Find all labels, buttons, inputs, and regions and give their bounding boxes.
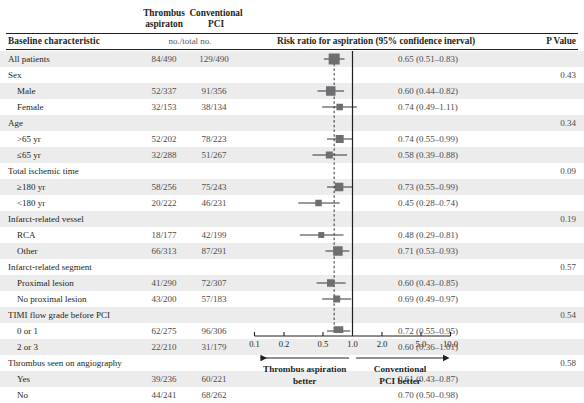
cell-conventional-pci-count: 57/183: [188, 294, 240, 305]
cell-conventional-pci-count: 91/356: [188, 86, 240, 97]
table-row: Other66/31387/2910.71 (0.53–0.93): [0, 243, 584, 259]
cell-thrombus-aspiration-count: 32/153: [140, 102, 188, 113]
table-row: ≤65 yr32/28851/2670.58 (0.39–0.88): [0, 147, 584, 163]
row-label: <180 yr: [8, 198, 159, 209]
table-row: >65 yr52/20278/2230.74 (0.55–0.99): [0, 131, 584, 147]
cell-conventional-pci-count: 38/134: [188, 102, 240, 113]
row-label: All patients: [8, 54, 150, 65]
cell-thrombus-aspiration-count: 41/290: [140, 278, 188, 289]
column-header-baseline-characteristic: Baseline characteristic: [8, 36, 100, 46]
axis-tick-label: 5.0: [416, 339, 427, 349]
cell-conventional-pci-count: 78/223: [188, 134, 240, 145]
cell-conventional-pci-count: 51/267: [188, 150, 240, 161]
subgroup-header-row: Age0.34: [0, 115, 584, 131]
axis-footer-right-line1: Conventional: [374, 364, 427, 374]
axis-footer-left-line2: better: [293, 376, 316, 386]
table-row: Proximal lesion41/29072/3070.60 (0.43–0.…: [0, 275, 584, 291]
header-rule-bottom: [6, 49, 578, 50]
subgroup-header-row: TIMI flow grade before PCI0.54: [0, 307, 584, 323]
row-label: Male: [8, 86, 159, 97]
axis-tick-label: 10.0: [443, 339, 458, 349]
row-label: Infarct-related vessel: [8, 214, 150, 225]
row-label: ≤65 yr: [8, 150, 159, 161]
table-row: All patients84/490129/4900.65 (0.51–0.83…: [0, 51, 584, 67]
axis-tick-label: 0.1: [249, 339, 260, 349]
cell-risk-ratio: 0.73 (0.55–0.99): [398, 182, 514, 193]
row-label: ≥180 yr: [8, 182, 159, 193]
subgroup-header-row: Total ischemic time0.09: [0, 163, 584, 179]
row-label: Age: [8, 118, 150, 129]
cell-risk-ratio: 0.71 (0.53–0.93): [398, 246, 514, 257]
row-label: Total ischemic time: [8, 166, 150, 177]
cell-thrombus-aspiration-count: 20/222: [140, 198, 188, 209]
axis-tick-label: 0.5: [318, 339, 329, 349]
cell-thrombus-aspiration-count: 58/256: [140, 182, 188, 193]
table-row: ≥180 yr58/25675/2430.73 (0.55–0.99): [0, 179, 584, 195]
cell-thrombus-aspiration-count: 84/490: [140, 54, 188, 65]
cell-risk-ratio: 0.60 (0.44–0.82): [398, 86, 514, 97]
cell-risk-ratio: 0.45 (0.28–0.74): [398, 198, 514, 209]
axis-tick-label: 1.0: [347, 339, 358, 349]
cell-thrombus-aspiration-count: 66/313: [140, 246, 188, 257]
cell-conventional-pci-count: 87/291: [188, 246, 240, 257]
table-row: <180 yr20/22246/2310.45 (0.28–0.74): [0, 195, 584, 211]
column-header-thrombus-aspiration: Thrombus aspiraton: [138, 8, 190, 30]
cell-risk-ratio: 0.60 (0.43–0.85): [398, 278, 514, 289]
cell-thrombus-aspiration-count: 43/200: [140, 294, 188, 305]
subgroup-header-row: Infarct-related vessel0.19: [0, 211, 584, 227]
cell-risk-ratio: 0.58 (0.39–0.88): [398, 150, 514, 161]
cell-p-value: 0.19: [516, 214, 576, 225]
column-header-no-total-no: no./total no.: [140, 36, 240, 46]
header-rule-top: [6, 33, 578, 34]
cell-risk-ratio: 0.48 (0.29–0.81): [398, 230, 514, 241]
cell-thrombus-aspiration-count: 52/337: [140, 86, 188, 97]
table-row: No proximal lesion43/20057/1830.69 (0.49…: [0, 291, 584, 307]
row-label: >65 yr: [8, 134, 159, 145]
cell-risk-ratio: 0.74 (0.49–1.11): [398, 102, 514, 113]
row-label: TIMI flow grade before PCI: [8, 310, 150, 321]
cell-risk-ratio: 0.69 (0.49–0.97): [398, 294, 514, 305]
cell-thrombus-aspiration-count: 32/288: [140, 150, 188, 161]
cell-p-value: 0.57: [516, 262, 576, 273]
cell-p-value: 0.54: [516, 310, 576, 321]
subgroup-header-row: Sex0.43: [0, 67, 584, 83]
cell-thrombus-aspiration-count: 52/202: [140, 134, 188, 145]
row-label: Other: [8, 246, 159, 257]
cell-thrombus-aspiration-count: 18/177: [140, 230, 188, 241]
subgroup-header-row: Infarct-related segment0.57: [0, 259, 584, 275]
cell-conventional-pci-count: 75/243: [188, 182, 240, 193]
column-header-p-value: P Value: [508, 36, 576, 46]
cell-conventional-pci-count: 42/199: [188, 230, 240, 241]
axis-tick-label: 2.0: [377, 339, 388, 349]
cell-p-value: 0.09: [516, 166, 576, 177]
cell-conventional-pci-count: 72/307: [188, 278, 240, 289]
cell-p-value: 0.43: [516, 70, 576, 81]
cell-risk-ratio: 0.65 (0.51–0.83): [398, 54, 514, 65]
table-row: RCA18/17742/1990.48 (0.29–0.81): [0, 227, 584, 243]
cell-p-value: 0.34: [516, 118, 576, 129]
cell-risk-ratio: 0.74 (0.55–0.99): [398, 134, 514, 145]
row-label: Sex: [8, 70, 150, 81]
axis-footer-left-line1: Thrombus aspiration: [263, 364, 346, 374]
row-label: No proximal lesion: [8, 294, 159, 305]
axis-footer-right-line2: PCI better: [379, 376, 421, 386]
cell-conventional-pci-count: 129/490: [188, 54, 240, 65]
column-header-risk-ratio: Risk ratio for aspiration (95% confidenc…: [248, 36, 504, 46]
row-label: Proximal lesion: [8, 278, 159, 289]
cell-conventional-pci-count: 46/231: [188, 198, 240, 209]
row-label: RCA: [8, 230, 159, 241]
row-label: Infarct-related segment: [8, 262, 150, 273]
column-header-conventional-pci: Conventional PCI: [188, 8, 244, 30]
axis-tick-label: 0.2: [279, 339, 290, 349]
forest-plot-axis: 0.10.20.51.02.05.010.0Thrombus aspiratio…: [0, 330, 584, 395]
table-row: Male52/33791/3560.60 (0.44–0.82): [0, 83, 584, 99]
row-label: Female: [8, 102, 159, 113]
table-row: Female32/15338/1340.74 (0.49–1.11): [0, 99, 584, 115]
